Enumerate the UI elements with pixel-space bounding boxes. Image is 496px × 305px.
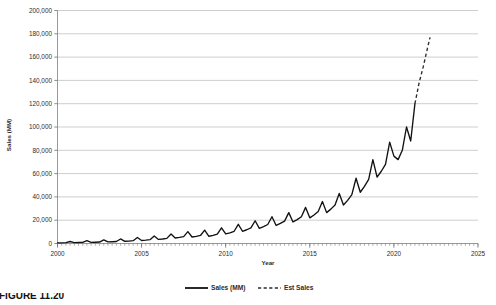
y-tick-marks-group <box>54 11 57 244</box>
y-tick-label: 60,000 <box>32 170 52 177</box>
y-tick-label: 20,000 <box>32 216 52 223</box>
x-tick-label: 2005 <box>134 250 149 257</box>
y-tick-label: 100,000 <box>29 123 53 130</box>
legend-label-est-sales: Est Sales <box>284 284 314 291</box>
x-axis-title: Year <box>261 259 275 266</box>
y-axis-title: Sales (MM) <box>5 119 12 151</box>
x-tick-label: 2025 <box>471 250 486 257</box>
gridlines-group <box>58 11 479 221</box>
data-series-group <box>58 37 431 243</box>
chart-legend: Sales (MM) Est Sales <box>185 284 314 292</box>
legend-label-sales: Sales (MM) <box>211 284 245 292</box>
x-tick-label: 2015 <box>303 250 318 257</box>
sales-forecast-line-chart: 020,00040,00060,00080,000100,000120,0001… <box>0 0 496 305</box>
figure-caption: FIGURE 11.20 <box>0 293 64 301</box>
x-tick-label: 2000 <box>50 250 65 257</box>
figure-caption-clip: FIGURE 11.20 <box>0 293 110 305</box>
x-minor-ticks-group <box>58 244 479 246</box>
y-tick-label: 0 <box>48 240 52 247</box>
series-est-sales <box>415 37 430 103</box>
y-tick-label: 120,000 <box>29 100 53 107</box>
x-tick-label: 2020 <box>387 250 402 257</box>
y-tick-label: 40,000 <box>32 193 52 200</box>
y-tick-label: 200,000 <box>29 7 53 14</box>
x-tick-labels-group: 200020052010201520202025 <box>50 250 485 257</box>
y-tick-label: 180,000 <box>29 30 53 37</box>
y-tick-labels-group: 020,00040,00060,00080,000100,000120,0001… <box>29 7 53 247</box>
y-tick-label: 140,000 <box>29 77 53 84</box>
figure-container: 020,00040,00060,00080,000100,000120,0001… <box>0 0 496 305</box>
y-tick-label: 80,000 <box>32 147 52 154</box>
y-tick-label: 160,000 <box>29 53 53 60</box>
x-tick-label: 2010 <box>219 250 234 257</box>
